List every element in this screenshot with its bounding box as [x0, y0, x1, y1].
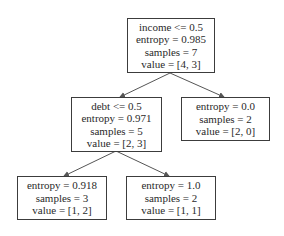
decision-tree-diagram: income <= 0.5 entropy = 0.985 samples = … [0, 0, 284, 236]
node-entropy: entropy = 0.985 [136, 33, 206, 46]
node-split-condition: income <= 0.5 [139, 21, 203, 34]
node-split-condition: debt <= 0.5 [91, 100, 142, 113]
node-entropy: entropy = 0.0 [196, 100, 255, 113]
tree-node-right: entropy = 0.0 samples = 2 value = [2, 0] [181, 97, 270, 141]
tree-node-left-right: entropy = 1.0 samples = 2 value = [1, 1] [126, 176, 216, 220]
node-value: value = [2, 0] [196, 125, 255, 138]
node-value: value = [1, 1] [141, 204, 200, 217]
node-value: value = [1, 2] [32, 204, 91, 217]
edge-left-to-left-left [64, 151, 116, 176]
node-value: value = [4, 3] [141, 58, 200, 71]
tree-node-left: debt <= 0.5 entropy = 0.971 samples = 5 … [71, 97, 162, 152]
node-entropy: entropy = 0.918 [27, 179, 97, 192]
edge-root-to-left [120, 73, 170, 97]
edge-root-to-right [170, 73, 224, 97]
tree-node-left-left: entropy = 0.918 samples = 3 value = [1, … [17, 176, 107, 220]
node-value: value = [2, 3] [87, 137, 146, 150]
node-entropy: entropy = 1.0 [141, 179, 200, 192]
node-entropy: entropy = 0.971 [81, 112, 151, 125]
tree-node-root: income <= 0.5 entropy = 0.985 samples = … [127, 18, 215, 73]
node-samples: samples = 2 [199, 113, 252, 126]
node-samples: samples = 5 [90, 125, 143, 138]
node-samples: samples = 2 [145, 192, 198, 205]
node-samples: samples = 3 [36, 192, 89, 205]
node-samples: samples = 7 [145, 46, 198, 59]
edge-left-to-left-right [116, 151, 169, 176]
